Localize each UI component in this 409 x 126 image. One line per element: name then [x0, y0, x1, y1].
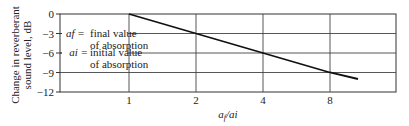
legend-text-initial-line1: initial value: [90, 46, 142, 58]
y-axis-label: Change in reverberant sound level, dB: [2, 10, 40, 100]
x-tick-label: 4: [260, 94, 266, 106]
legend-symbol-af: af =: [66, 27, 90, 39]
y-tick-label: −3: [42, 28, 54, 40]
y-tick-label: −6: [42, 47, 54, 59]
legend-text-final-line1: final value: [90, 27, 137, 39]
legend-text-initial-line2: of absorption: [90, 58, 148, 70]
x-axis-label: af/ai: [218, 108, 237, 122]
y-tick-label: 0: [49, 8, 55, 20]
x-tick-label: 1: [126, 94, 132, 106]
y-axis-label-line1: Change in reverberant: [9, 6, 21, 104]
legend-initial: ai =initial value of absorption: [66, 46, 148, 70]
y-axis-label-line2: sound level, dB: [21, 6, 33, 104]
data-line: [129, 14, 358, 79]
chart-plot: 0 −3 −6 −9 −12 1 2 4 8 af/ai: [0, 0, 409, 126]
x-tick-label: 8: [327, 94, 333, 106]
y-tick-label: −9: [42, 67, 54, 79]
x-tick-label: 2: [193, 94, 199, 106]
y-tick-marks: [56, 14, 62, 92]
legend-symbol-ai: ai =: [66, 46, 90, 58]
x-tick-labels: 1 2 4 8: [126, 94, 333, 106]
